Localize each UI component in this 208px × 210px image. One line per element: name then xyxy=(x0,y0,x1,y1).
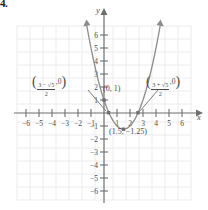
x-tick-label: 6 xyxy=(180,119,184,128)
y-axis-label: y xyxy=(96,5,100,15)
left-paren: ( xyxy=(146,74,151,89)
x-tick-label: −6 xyxy=(22,119,30,128)
y-tick-label: −4 xyxy=(90,161,98,170)
left-paren: ( xyxy=(32,74,37,89)
y-tick-label: 2 xyxy=(94,83,98,92)
point-right-root xyxy=(136,111,139,114)
y-tick-label: −2 xyxy=(90,135,98,144)
y-intercept-annotation: (0, 1) xyxy=(103,85,120,93)
vertex-annotation: (1.5, −1.25) xyxy=(109,128,147,136)
x-tick-label: 4 xyxy=(154,119,158,128)
y-tick-label: −1 xyxy=(90,122,98,131)
left-root-denominator: 2 xyxy=(45,90,48,97)
x-tick-labels: −6 −5 −4 −3 −2 −1 1 2 3 4 5 6 xyxy=(22,119,184,128)
x-tick-label: −5 xyxy=(35,119,43,128)
x-tick-label: −4 xyxy=(48,119,56,128)
right-root-numerator: 3 + √5 xyxy=(151,82,169,90)
left-root-fraction: 3 − √52 xyxy=(37,82,55,97)
right-paren: ) xyxy=(175,74,180,89)
x-tick-label: −2 xyxy=(74,119,82,128)
coordinate-plane: −6 −5 −4 −3 −2 −1 1 2 3 4 5 6 6 5 4 3 2 … xyxy=(0,0,208,210)
point-left-root xyxy=(107,111,110,114)
y-tick-label: −3 xyxy=(90,148,98,157)
x-axis-label: x xyxy=(197,112,201,122)
y-tick-label: −5 xyxy=(90,174,98,183)
right-root-annotation: (3 + √52,0) xyxy=(146,76,180,97)
x-tick-label: −3 xyxy=(61,119,69,128)
right-paren: ) xyxy=(61,74,66,89)
y-tick-label: 5 xyxy=(94,44,98,53)
point-y-intercept xyxy=(102,98,105,101)
parabola-figure: 4. xyxy=(0,0,208,210)
y-tick-label: −6 xyxy=(90,187,98,196)
left-root-annotation: (3 − √52,0) xyxy=(32,76,66,97)
y-tick-label: 6 xyxy=(94,31,98,40)
right-root-fraction: 3 + √52 xyxy=(151,82,169,97)
x-tick-label: 5 xyxy=(167,119,171,128)
left-root-numerator: 3 − √5 xyxy=(37,82,55,90)
right-root-denominator: 2 xyxy=(159,90,162,97)
y-axis-arrow xyxy=(101,8,108,15)
